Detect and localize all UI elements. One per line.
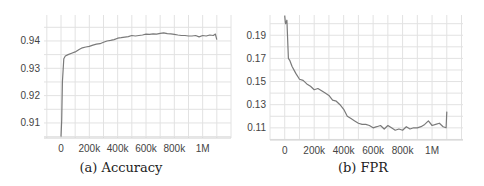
accuracy-caption: (a) Accuracy <box>0 160 242 175</box>
series-line <box>61 33 217 137</box>
y-tick-label: 0.13 <box>247 99 267 110</box>
y-axis-ticks: 0.910.920.930.94 <box>21 35 41 128</box>
x-tick-label: 800k <box>163 143 186 154</box>
x-tick-label: 400k <box>333 145 356 156</box>
fpr-chart: 0.110.130.150.170.190200k400k600k800k1M <box>242 0 484 186</box>
x-tick-label: 0 <box>282 145 288 156</box>
x-tick-label: 600k <box>135 143 158 154</box>
x-axis-ticks: 0200k400k600k800k1M <box>282 145 439 156</box>
grid <box>44 15 231 138</box>
y-tick-label: 0.92 <box>21 90 41 101</box>
x-tick-label: 800k <box>392 145 415 156</box>
x-axis-ticks: 0200k400k600k800k1M <box>58 143 209 154</box>
fpr-chart-panel: 0.110.130.150.170.190200k400k600k800k1M … <box>242 0 484 186</box>
x-tick-label: 200k <box>78 143 101 154</box>
y-tick-label: 0.11 <box>247 122 266 133</box>
y-tick-label: 0.91 <box>21 117 41 128</box>
y-tick-label: 0.15 <box>247 76 267 87</box>
fpr-caption: (b) FPR <box>242 160 484 175</box>
series-line <box>285 16 447 131</box>
y-tick-label: 0.94 <box>21 35 41 46</box>
x-tick-label: 0 <box>58 143 64 154</box>
x-tick-label: 400k <box>107 143 130 154</box>
x-tick-label: 1M <box>425 145 439 156</box>
x-tick-label: 1M <box>196 143 210 154</box>
accuracy-chart: 0.910.920.930.940200k400k600k800k1M <box>0 0 242 186</box>
y-tick-label: 0.93 <box>21 63 41 74</box>
accuracy-chart-panel: 0.910.920.930.940200k400k600k800k1M (a) … <box>0 0 242 186</box>
y-axis-ticks: 0.110.130.150.170.19 <box>247 30 267 134</box>
x-tick-label: 600k <box>362 145 385 156</box>
x-tick-label: 200k <box>303 145 326 156</box>
y-tick-label: 0.19 <box>247 30 267 41</box>
y-tick-label: 0.17 <box>247 53 267 64</box>
